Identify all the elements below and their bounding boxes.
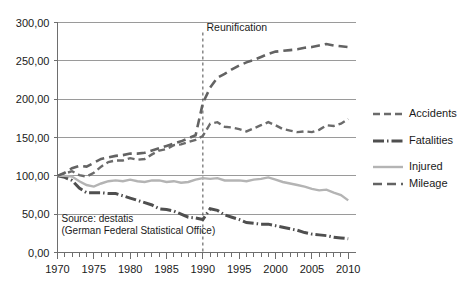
y-axis-label-250: 250,00: [16, 55, 50, 67]
x-axis-label-1985: 1985: [154, 263, 178, 275]
y-axis-label-50: 50,00: [22, 208, 50, 220]
legend-label-injured: Injured: [409, 160, 443, 172]
x-axis-label-2005: 2005: [300, 263, 324, 275]
line-chart: 0,0050,00100,00150,00200,00250,00300,001…: [0, 0, 462, 289]
x-axis-label-1990: 1990: [191, 263, 215, 275]
y-axis-label-100: 100,00: [16, 170, 50, 182]
reunification-marker-label: Reunification: [207, 21, 268, 33]
x-axis-label-1975: 1975: [82, 263, 106, 275]
x-axis-label-2010: 2010: [336, 263, 360, 275]
source-note-line-2: (German Federal Statistical Office): [62, 225, 216, 236]
x-axis-label-1995: 1995: [227, 263, 251, 275]
x-axis-label-1970: 1970: [45, 263, 69, 275]
y-axis-label-0: 0,00: [28, 247, 49, 259]
y-axis-label-300: 300,00: [16, 17, 50, 29]
x-axis-label-1980: 1980: [118, 263, 142, 275]
legend-label-mileage: Mileage: [409, 177, 448, 189]
x-axis-label-2000: 2000: [263, 263, 287, 275]
chart-figure: 0,0050,00100,00150,00200,00250,00300,001…: [0, 0, 462, 289]
y-axis-label-200: 200,00: [16, 93, 50, 105]
legend-label-accidents: Accidents: [409, 107, 457, 119]
legend-label-fatalities: Fatalities: [409, 134, 454, 146]
y-axis-label-150: 150,00: [16, 132, 50, 144]
source-note-line-1: Source: destatis: [62, 213, 134, 224]
